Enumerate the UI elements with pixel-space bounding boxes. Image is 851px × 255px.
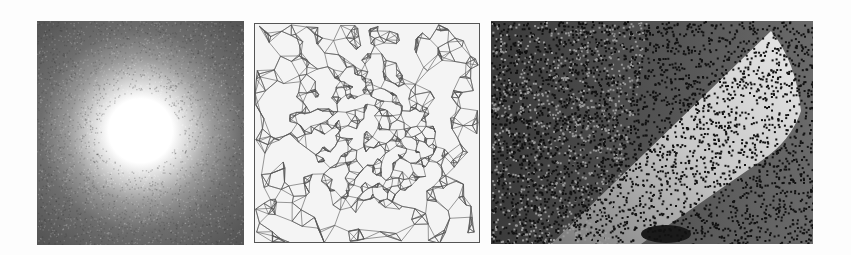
noise-overlay	[37, 21, 244, 245]
figure-panel-noisy-wedge	[491, 21, 813, 244]
figure-panel-radial-noise	[37, 21, 244, 245]
mesh-lines	[255, 24, 480, 243]
wedge-render	[491, 21, 813, 244]
figure-panel-mesh	[254, 23, 480, 243]
